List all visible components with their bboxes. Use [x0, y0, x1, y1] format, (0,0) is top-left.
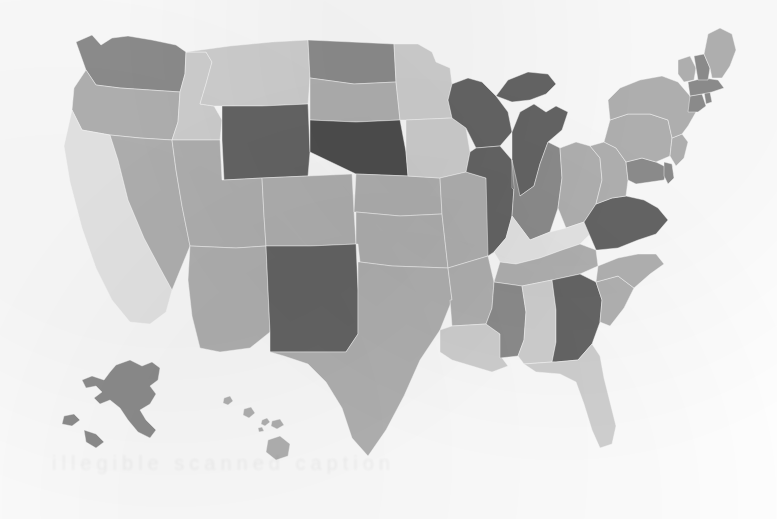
us-choropleth-map[interactable]	[0, 0, 777, 519]
inset-alaska[interactable]	[62, 360, 160, 448]
state-wyoming[interactable]	[222, 104, 310, 180]
state-new-mexico[interactable]	[266, 244, 358, 352]
state-rhode-island[interactable]	[704, 92, 712, 104]
caption-ghost-text: illegible scanned caption	[52, 452, 672, 478]
state-arizona[interactable]	[188, 246, 270, 352]
state-kansas[interactable]	[354, 174, 442, 216]
state-north-dakota[interactable]	[308, 40, 396, 84]
state-delaware[interactable]	[664, 162, 674, 184]
state-south-dakota[interactable]	[310, 78, 400, 122]
state-massachusetts[interactable]	[688, 78, 724, 96]
state-oklahoma[interactable]	[356, 212, 448, 268]
state-nebraska[interactable]	[310, 120, 408, 176]
state-vermont[interactable]	[678, 56, 696, 82]
figure-root: illegible scanned caption	[0, 0, 777, 519]
state-new-jersey[interactable]	[670, 134, 688, 166]
state-connecticut[interactable]	[688, 94, 706, 112]
inset-hawaii[interactable]	[223, 396, 290, 460]
state-minnesota[interactable]	[394, 44, 452, 120]
state-iowa[interactable]	[406, 118, 470, 178]
state-arkansas[interactable]	[448, 256, 494, 326]
state-maryland[interactable]	[626, 158, 668, 184]
state-colorado[interactable]	[262, 174, 356, 246]
state-virginia[interactable]	[584, 196, 668, 250]
